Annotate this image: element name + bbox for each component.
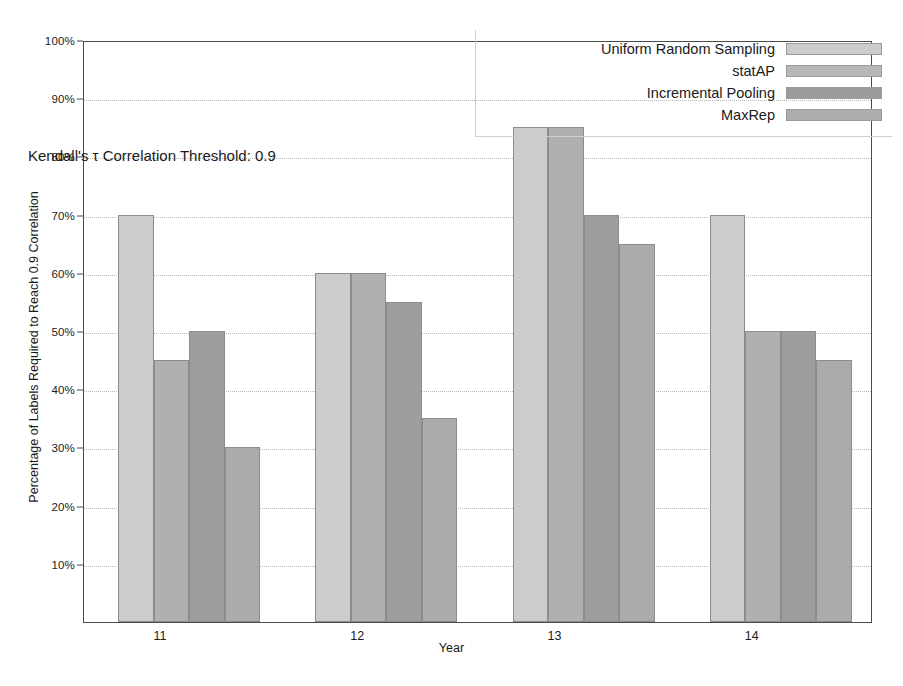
legend-item-label: MaxRep: [721, 107, 775, 123]
y-axis-tick-label: 100%: [45, 35, 75, 47]
y-axis-tick-label: 10%: [51, 559, 75, 571]
legend-item[interactable]: statAP: [486, 60, 882, 82]
y-axis-tick-label: 50%: [51, 326, 75, 338]
legend: Uniform Random SamplingstatAPIncremental…: [475, 30, 892, 137]
bar: [816, 360, 852, 622]
legend-color-swatch: [786, 65, 882, 77]
bar: [584, 215, 620, 622]
y-axis-tick-label: 30%: [51, 442, 75, 454]
bar: [225, 447, 261, 622]
legend-item-label: Incremental Pooling: [647, 85, 775, 101]
y-axis-tick-label: 20%: [51, 501, 75, 513]
y-axis-title: Percentage of Labels Required to Reach 0…: [27, 47, 41, 647]
y-axis-tick-label: 90%: [51, 93, 75, 105]
legend-item-label: Uniform Random Sampling: [601, 41, 775, 57]
bar: [710, 215, 746, 622]
y-axis-tick-label: 40%: [51, 384, 75, 396]
legend-item[interactable]: Uniform Random Sampling: [486, 38, 882, 60]
bar: [422, 418, 458, 622]
legend-item[interactable]: Incremental Pooling: [486, 82, 882, 104]
gridline: [84, 217, 871, 218]
x-axis-title: Year: [0, 641, 903, 655]
bar: [548, 127, 584, 622]
bar: [315, 273, 351, 622]
bar: [513, 127, 549, 622]
legend-color-swatch: [786, 109, 882, 121]
correlation-threshold-annotation: Kendall's τ Correlation Threshold: 0.9: [28, 147, 276, 164]
legend-item-label: statAP: [732, 63, 775, 79]
bar: [745, 331, 781, 622]
bar: [118, 215, 154, 622]
bar: [386, 302, 422, 622]
y-axis-tick-label: 70%: [51, 210, 75, 222]
legend-color-swatch: [786, 87, 882, 99]
gridline: [84, 275, 871, 276]
bar: [619, 244, 655, 622]
legend-color-swatch: [786, 43, 882, 55]
bar: [351, 273, 387, 622]
bar-chart-figure: 10%20%30%40%50%60%70%80%90%100% Percenta…: [0, 0, 903, 686]
bar: [189, 331, 225, 622]
bar: [781, 331, 817, 622]
legend-item[interactable]: MaxRep: [486, 104, 882, 126]
bar: [154, 360, 190, 622]
y-axis-tick-label: 60%: [51, 268, 75, 280]
